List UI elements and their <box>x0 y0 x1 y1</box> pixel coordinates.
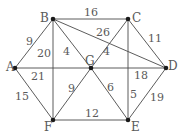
node-label-e: E <box>131 120 140 134</box>
edge-weight-g-e: 6 <box>107 81 114 94</box>
node-label-g: G <box>85 54 95 68</box>
graph-diagram: 916261120445211815961219 ABCDGFE <box>0 0 184 135</box>
node-e <box>126 118 131 123</box>
node-label-b: B <box>40 11 49 25</box>
edge-weight-b-d: 26 <box>96 26 110 39</box>
edge-weight-b-g: 4 <box>63 45 70 58</box>
edge-weight-c-e: 5 <box>130 88 137 101</box>
edge-weight-f-e: 12 <box>85 107 99 120</box>
edge-weight-b-c: 16 <box>84 6 98 19</box>
node-label-d: D <box>168 59 178 73</box>
edge-weight-a-g: 21 <box>31 70 45 83</box>
edge-weight-b-f: 20 <box>37 47 51 60</box>
edge-weight-d-e: 19 <box>150 91 164 104</box>
node-label-f: F <box>44 120 52 134</box>
node-label-a: A <box>5 60 15 74</box>
edge-weight-c-d: 11 <box>148 32 162 45</box>
node-label-c: C <box>132 11 141 25</box>
edge-a-b <box>15 19 53 68</box>
edge-weight-f-g: 9 <box>68 82 75 95</box>
edge-weight-a-f: 15 <box>15 90 29 103</box>
edge-weight-a-b: 9 <box>26 35 33 48</box>
node-c <box>126 17 131 22</box>
node-b <box>51 17 56 22</box>
edge-weight-g-d: 18 <box>134 69 148 82</box>
edge-weight-c-g: 4 <box>103 45 110 58</box>
